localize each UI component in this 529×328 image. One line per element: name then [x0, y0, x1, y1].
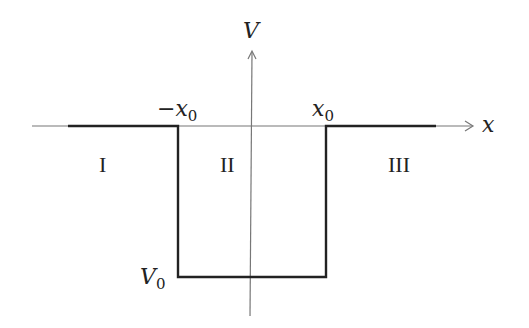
region-label-I: I — [99, 154, 106, 176]
region-label-III: III — [388, 154, 410, 176]
v0-label: V0 — [140, 266, 165, 288]
minus-sign: − — [157, 96, 175, 121]
y-axis-label: V — [243, 20, 259, 42]
x-axis-label: x — [482, 114, 494, 136]
x0-label: x0 — [312, 98, 334, 120]
x0-var: x — [312, 96, 324, 121]
region-label-II: II — [220, 154, 235, 176]
potential-well-diagram — [0, 0, 529, 328]
neg-x0-var: x — [175, 96, 187, 121]
v0-sub: 0 — [156, 275, 166, 293]
neg-x0-sub: 0 — [188, 107, 198, 125]
x0-sub: 0 — [324, 107, 334, 125]
neg-x0-label: −x0 — [157, 98, 197, 120]
v0-var: V — [140, 264, 156, 289]
potential-curve — [68, 126, 436, 277]
